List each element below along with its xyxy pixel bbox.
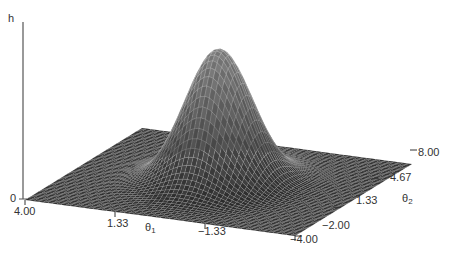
mesh-surface [25,49,412,236]
theta1-subscript: 1 [151,226,155,235]
z-zero-label: 0 [10,192,16,204]
x-tick-label-neg-4: −4.00 [290,233,318,245]
y-tick-label-8: 8.00 [418,146,439,158]
y-tick-label-neg-2: −2.00 [322,219,350,231]
y-tick-label-4-67: 4.67 [390,171,411,183]
z-axis-label: h [8,12,14,24]
theta2-subscript: 2 [408,197,412,206]
x-tick-label-1-33: 1.33 [107,217,128,229]
y-tick-label-1-33: 1.33 [356,194,377,206]
x-tick-label-neg-1-33: −1.33 [198,225,226,237]
x-tick-label-4: 4.00 [14,205,35,217]
surface-plot [0,0,451,255]
theta2-axis-label: θ2 [402,192,413,206]
theta1-axis-label: θ1 [145,221,156,235]
